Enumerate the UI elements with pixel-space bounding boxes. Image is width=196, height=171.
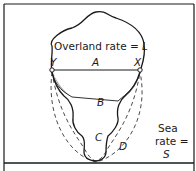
sea-rate-var: S xyxy=(163,148,170,160)
point-x-label: X xyxy=(133,56,142,68)
route-b-label: B xyxy=(97,96,104,108)
route-d-label: D xyxy=(119,140,127,152)
route-a-label: A xyxy=(91,56,99,68)
route-d-line xyxy=(51,72,142,162)
point-y-marker xyxy=(50,68,54,72)
route-c-label: C xyxy=(95,131,103,143)
sea-rate-label-line2: rate = xyxy=(155,135,188,147)
route-diagram: Overland rate = L Y X A B C D Sea rate =… xyxy=(0,0,196,171)
sea-rate-label-line1: Sea xyxy=(158,122,178,134)
point-y-label: Y xyxy=(50,56,58,68)
overland-rate-label: Overland rate = L xyxy=(54,40,148,52)
point-x-marker xyxy=(138,68,142,72)
